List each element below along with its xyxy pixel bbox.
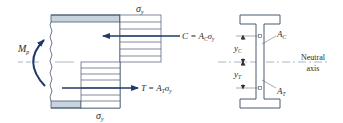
- centroid-marker-t: [259, 87, 262, 90]
- neutral-axis-label-line2: axis: [307, 64, 320, 73]
- section-cut-line: [50, 22, 52, 101]
- top-flange-shaded: [51, 15, 120, 22]
- compression-force-label: C = ACσy: [182, 31, 215, 42]
- curved-arrow-icon: [33, 40, 45, 86]
- sigma-top-label: σy: [136, 3, 144, 15]
- neutral-axis-label: Neutral: [301, 53, 326, 62]
- tension-force-label: T = ATσy: [141, 83, 172, 94]
- bottom-flange-shaded: [51, 101, 81, 108]
- area-c-label: AC: [276, 29, 287, 40]
- moment-label: Mp: [17, 43, 29, 55]
- sigma-bottom-label: σy: [96, 110, 104, 122]
- yt-label: yT: [233, 69, 242, 80]
- tension-stress-block: [81, 62, 120, 108]
- yc-label: yC: [233, 43, 242, 54]
- area-t-label: AT: [276, 86, 287, 97]
- i-beam-cross-section: [236, 15, 280, 108]
- compression-stress-block: [120, 15, 161, 62]
- plastic-moment-diagram: σy σy Mp C = ACσy T = ATσy yC yT AC AT N…: [0, 0, 343, 123]
- centroid-marker-c: [259, 35, 262, 38]
